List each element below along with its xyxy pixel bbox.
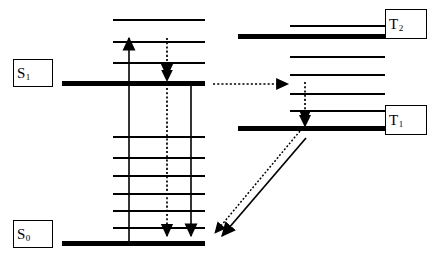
state-label-box-s0: S0 xyxy=(13,220,53,248)
state-label-s1: S1 xyxy=(17,66,30,81)
internal-conversion-arrowhead-at-S1 xyxy=(161,70,173,82)
state-label-t2: T2 xyxy=(389,17,403,32)
state-label-s0-base: S xyxy=(17,226,25,242)
state-label-t1: T1 xyxy=(389,113,403,128)
electronic-state-levels xyxy=(62,36,385,243)
state-label-box-t1: T1 xyxy=(385,105,427,135)
state-label-t2-sub: 2 xyxy=(399,23,404,33)
vibrational-levels-triplet xyxy=(290,26,385,111)
state-label-s0-sub: 0 xyxy=(26,233,31,243)
state-label-s1-sub: 1 xyxy=(26,72,31,82)
nonradiative-decay-arrow xyxy=(215,131,300,233)
state-label-t2-base: T xyxy=(389,16,398,32)
state-label-t1-base: T xyxy=(389,112,398,128)
overlay-arrowheads xyxy=(161,70,311,128)
state-label-s0: S0 xyxy=(17,227,30,242)
state-label-s1-base: S xyxy=(17,65,25,81)
state-label-t1-sub: 1 xyxy=(399,119,404,129)
diagram-canvas xyxy=(0,0,443,269)
state-label-box-t2: T2 xyxy=(385,9,427,39)
phosphorescence-arrow xyxy=(222,138,306,236)
jablonski-diagram: S1 S0 T2 T1 xyxy=(0,0,443,269)
state-label-box-s1: S1 xyxy=(13,59,53,87)
vibrational-levels-singlet-excited xyxy=(113,20,205,63)
